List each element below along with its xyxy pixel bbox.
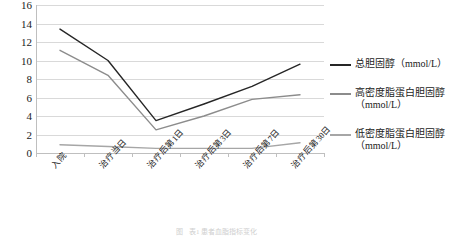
caption-mark: 图 [176, 228, 183, 236]
y-axis-line [36, 5, 37, 153]
series-line [60, 50, 300, 130]
x-tick [84, 153, 85, 157]
legend-unit: （mmol/L） [355, 140, 445, 152]
series-line [60, 29, 300, 121]
legend-unit: （mmol/L） [355, 99, 445, 111]
y-tick-label: 8 [4, 74, 32, 84]
y-tick-label: 14 [4, 19, 32, 29]
x-tick [324, 153, 325, 157]
legend-line-icon [330, 93, 351, 95]
legend-line-icon [330, 64, 351, 66]
legend-label: 低密度脂蛋白胆固醇（mmol/L） [355, 128, 445, 152]
x-tick [132, 153, 133, 157]
y-tick-label: 2 [4, 130, 32, 140]
legend-item[interactable]: 总胆固醇（mmol/L） [330, 58, 456, 70]
caption-text: 表1 患者血脂指标变化 [189, 228, 257, 236]
y-axis-labels: 1614121086420 [0, 0, 32, 160]
legend-label: 总胆固醇（mmol/L） [355, 58, 447, 70]
x-tick [276, 153, 277, 157]
x-tick [228, 153, 229, 157]
y-tick-label: 0 [4, 148, 32, 158]
legend-label: 高密度脂蛋白胆固醇（mmol/L） [355, 87, 445, 111]
x-tick [36, 153, 37, 157]
legend-item[interactable]: 高密度脂蛋白胆固醇（mmol/L） [330, 87, 456, 111]
line-chart: 1614121086420 入院治疗当日治疗后第1日治疗后第3日治疗后第7日治疗… [0, 0, 456, 237]
legend-item[interactable]: 低密度脂蛋白胆固醇（mmol/L） [330, 128, 456, 152]
chart-legend: 总胆固醇（mmol/L）高密度脂蛋白胆固醇（mmol/L）低密度脂蛋白胆固醇（m… [330, 58, 456, 169]
y-tick-label: 6 [4, 93, 32, 103]
legend-line-icon [330, 134, 351, 136]
y-tick-label: 16 [4, 0, 32, 10]
y-tick-label: 10 [4, 56, 32, 66]
y-tick-label: 4 [4, 111, 32, 121]
x-tick [180, 153, 181, 157]
y-tick-label: 12 [4, 37, 32, 47]
figure-caption: 图表1 患者血脂指标变化 [176, 228, 376, 236]
